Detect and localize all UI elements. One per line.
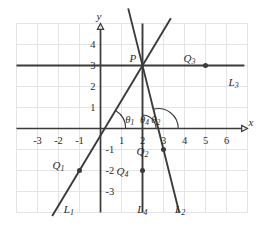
point-dot-q1: [77, 168, 82, 173]
x-tick-label-5: 5: [203, 136, 208, 147]
y-tick-label-3: 3: [90, 61, 95, 72]
line-label-l4-subscript: 4: [143, 208, 147, 217]
y-tick-label-1: 1: [90, 103, 95, 114]
point-label-p: P: [130, 53, 137, 64]
point-label-q1-subscript: 1: [60, 163, 64, 172]
angle-label-theta2-subscript: 2: [156, 118, 160, 127]
point-label-q2-subscript: 2: [144, 149, 148, 158]
point-label-q1: Q1: [53, 160, 65, 173]
y-tick-label-neg1: -1: [106, 145, 115, 156]
line-label-l1: L1: [64, 204, 74, 217]
point-label-p-text: P: [130, 52, 137, 64]
point-label-q4: Q4: [117, 166, 129, 179]
x-tick-label-neg2: -2: [54, 136, 63, 147]
x-tick-label-6: 6: [224, 136, 229, 147]
y-tick-label-2: 2: [90, 82, 95, 93]
plot-canvas: [0, 0, 274, 234]
line-label-l2-subscript: 2: [181, 208, 185, 217]
x-tick-label-4: 4: [182, 136, 187, 147]
point-label-q4-subscript: 4: [124, 169, 128, 178]
point-label-q3-subscript: 3: [191, 56, 195, 65]
point-label-q3: Q3: [184, 53, 196, 66]
point-dot-q4: [140, 168, 145, 173]
line-label-l3-subscript: 3: [235, 81, 239, 90]
point-dot-q3: [203, 63, 208, 68]
line-label-l4: L4: [137, 204, 147, 217]
axis-label-y: y: [97, 11, 102, 22]
axis-label-y-text: y: [97, 10, 102, 22]
x-tick-label-neg1: -1: [75, 136, 84, 147]
angle-label-theta2: θ2: [151, 115, 160, 126]
point-dot-q2: [161, 147, 166, 152]
axis-label-x: x: [249, 117, 254, 128]
line-label-l1-subscript: 1: [70, 208, 74, 217]
line-label-l2: L2: [175, 204, 185, 217]
angle-arc-theta1: [116, 110, 126, 128]
plotted-lines: [17, 8, 245, 216]
angle-label-theta4-subscript: 4: [145, 118, 149, 127]
x-tick-label-1: 1: [119, 136, 124, 147]
axis-label-x-text: x: [249, 116, 254, 128]
y-tick-label-neg3: -3: [106, 187, 115, 198]
plot-line-l2: [128, 8, 179, 212]
line-label-l3: L3: [229, 77, 239, 90]
y-tick-label-neg2: -2: [106, 166, 115, 177]
x-tick-label-3: 3: [161, 136, 166, 147]
angle-label-theta1: θ1: [125, 115, 134, 126]
y-tick-label-4: 4: [90, 40, 95, 51]
point-label-q2: Q2: [137, 146, 149, 159]
angle-label-theta1-subscript: 1: [130, 118, 134, 127]
x-tick-label-neg3: -3: [33, 136, 42, 147]
figure-coordinate-plane: xy-3-2-11234564321-1-2-3PQ1Q2Q3Q4L1L2L3L…: [0, 0, 274, 234]
angle-label-theta4: θ4: [140, 115, 149, 126]
